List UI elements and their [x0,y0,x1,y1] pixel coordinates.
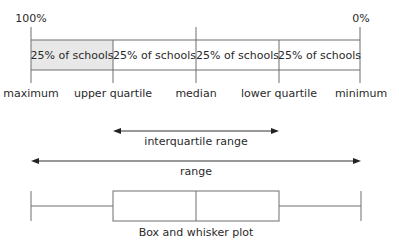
segment-1: 25% of schools [31,40,113,70]
percent-100-label: 100% [15,13,46,24]
plot-caption: Box and whisker plot [139,227,254,238]
diagram-lines [0,0,399,248]
range-arrow [31,158,361,164]
lower-quartile-label: lower quartile [241,88,317,99]
interquartile-range-arrow [113,128,279,134]
percent-0-label: 0% [352,13,369,24]
median-label: median [175,88,216,99]
interquartile-range-label: interquartile range [144,136,247,147]
upper-quartile-label: upper quartile [74,88,152,99]
box-whisker-plot [31,191,361,221]
segment-2: 25% of schools [113,40,196,70]
segment-3: 25% of schools [196,40,279,70]
maximum-label: maximum [3,88,58,99]
minimum-label: minimum [335,88,387,99]
segment-4: 25% of schools [279,40,360,70]
range-label: range [180,166,212,177]
